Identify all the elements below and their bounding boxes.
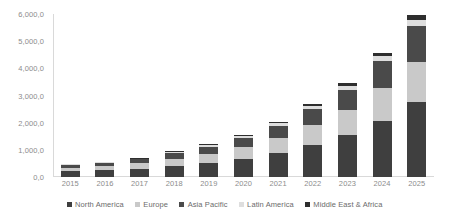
bar-stack xyxy=(303,104,322,177)
bar-stack xyxy=(373,53,392,177)
chart-legend: North AmericaEuropeAsia PacificLatin Ame… xyxy=(0,200,449,209)
bar-segment xyxy=(269,138,288,153)
legend-label: North America xyxy=(75,200,124,209)
y-axis-tick-label: 1,000,0 xyxy=(18,145,44,154)
bar-segment xyxy=(338,90,357,111)
bar-segment xyxy=(234,147,253,159)
x-axis: 2015201620172018201920202021202220232024… xyxy=(53,179,434,193)
y-axis-tick-label: 5,000,0 xyxy=(18,37,44,46)
plot-area xyxy=(53,14,434,177)
y-axis-tick-label: 6,000,0 xyxy=(18,10,44,19)
legend-item[interactable]: North America xyxy=(67,200,124,209)
bar-stack xyxy=(61,164,80,177)
bar-stack xyxy=(234,135,253,177)
bar-segment xyxy=(407,26,426,61)
legend-item[interactable]: Middle East & Africa xyxy=(305,200,383,209)
legend-swatch-icon xyxy=(179,202,184,207)
bar-segment xyxy=(303,125,322,145)
legend-swatch-icon xyxy=(239,202,244,207)
bar-segment xyxy=(165,166,184,177)
bar-segment xyxy=(373,88,392,120)
bar-segment xyxy=(199,154,218,163)
bar-stack xyxy=(165,151,184,177)
bar-series-container xyxy=(53,14,434,177)
y-axis: 0,01,000,02,000,03,000,04,000,05,000,06,… xyxy=(0,0,50,177)
legend-swatch-icon xyxy=(305,202,310,207)
bar-segment xyxy=(269,153,288,177)
bar-stack xyxy=(95,162,114,177)
bar-segment xyxy=(130,169,149,177)
bar-segment xyxy=(407,102,426,177)
legend-swatch-icon xyxy=(135,202,140,207)
legend-item[interactable]: Latin America xyxy=(239,200,294,209)
bar-stack xyxy=(338,83,357,177)
bar-segment xyxy=(165,159,184,166)
bar-stack xyxy=(269,122,288,177)
bar-segment xyxy=(303,109,322,125)
bar-stack xyxy=(130,158,149,177)
y-axis-tick-label: 0,0 xyxy=(33,173,44,182)
legend-label: Asia Pacific xyxy=(188,200,228,209)
bar-segment xyxy=(407,62,426,103)
stacked-bar-chart: 0,01,000,02,000,03,000,04,000,05,000,06,… xyxy=(0,0,449,220)
legend-label: Europe xyxy=(143,200,168,209)
bar-segment xyxy=(338,135,357,177)
bar-segment xyxy=(373,61,392,88)
y-axis-tick-label: 4,000,0 xyxy=(18,64,44,73)
bar-stack xyxy=(199,144,218,177)
legend-label: Latin America xyxy=(247,200,294,209)
y-axis-tick-label: 3,000,0 xyxy=(18,91,44,100)
legend-item[interactable]: Europe xyxy=(135,200,168,209)
bar-segment xyxy=(373,121,392,178)
bar-segment xyxy=(303,145,322,177)
x-axis-tick-label: 2025 xyxy=(397,179,437,188)
legend-label: Middle East & Africa xyxy=(313,200,382,209)
bar-stack xyxy=(407,15,426,177)
bar-segment xyxy=(199,147,218,154)
bar-segment xyxy=(95,170,114,177)
bar-segment xyxy=(61,171,80,177)
bar-segment xyxy=(269,126,288,138)
bar-segment xyxy=(199,163,218,177)
bar-segment xyxy=(338,110,357,134)
legend-swatch-icon xyxy=(67,202,72,207)
bar-segment xyxy=(234,159,253,177)
bar-segment xyxy=(234,138,253,147)
y-axis-tick-label: 2,000,0 xyxy=(18,118,44,127)
legend-item[interactable]: Asia Pacific xyxy=(179,200,227,209)
